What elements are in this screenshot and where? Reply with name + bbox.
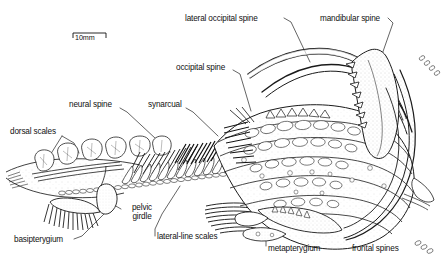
- scale-bar-label: 10mm: [75, 33, 95, 42]
- label-metapterygium: metapterygium: [268, 244, 320, 253]
- label-frontal-spines: frontal spines: [352, 244, 399, 253]
- label-synarcual: synarcual: [148, 100, 182, 109]
- label-occipital-spine: occipital spine: [176, 63, 225, 72]
- label-pelvic-girdle: pelvicgirdle: [122, 203, 162, 222]
- label-lateral-occipital-spine: lateral occipital spine: [185, 14, 258, 23]
- label-neural-spine: neural spine: [69, 100, 112, 109]
- figure-container: 10mm lateral occipital spine mandibular …: [0, 0, 447, 272]
- label-lateral-line-scales: lateral-line scales: [157, 232, 217, 241]
- anatomical-drawing: [0, 0, 447, 272]
- label-dorsal-scales: dorsal scales: [10, 127, 56, 136]
- label-mandibular-spine: mandibular spine: [320, 14, 380, 23]
- label-basipterygium: basipterygium: [14, 235, 63, 244]
